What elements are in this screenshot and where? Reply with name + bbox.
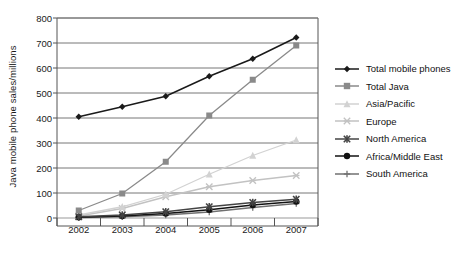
circle-marker-icon (334, 150, 360, 162)
x-tick-label: 2004 (155, 224, 176, 235)
legend-item-total-java[interactable]: Total Java (334, 78, 470, 96)
star-marker-icon (334, 133, 360, 145)
square-marker-icon (334, 80, 360, 92)
x-tick-label: 2003 (112, 224, 133, 235)
legend-label: Total Java (360, 81, 409, 92)
legend-item-north-america[interactable]: North America (334, 130, 470, 148)
plus-marker-icon (334, 168, 360, 180)
legend-item-total-mobile-phones[interactable]: Total mobile phones (334, 60, 470, 78)
cross-marker-icon (334, 115, 360, 127)
legend-label: South America (360, 168, 428, 179)
x-tick-label: 2006 (242, 224, 263, 235)
legend-item-africa-middle-east[interactable]: Africa/Middle East (334, 148, 470, 166)
legend-item-europe[interactable]: Europe (334, 113, 470, 131)
legend-label: North America (360, 133, 426, 144)
series-line (76, 34, 300, 120)
legend-item-asia-pacific[interactable]: Asia/Pacific (334, 95, 470, 113)
legend-item-south-america[interactable]: South America (334, 165, 470, 183)
x-tick-label: 2002 (68, 224, 89, 235)
x-tick-label: 2005 (199, 224, 220, 235)
triangle-marker-icon (334, 98, 360, 110)
legend-label: Asia/Pacific (360, 98, 415, 109)
diamond-marker-icon (334, 63, 360, 75)
chart-legend: Total mobile phonesTotal JavaAsia/Pacifi… (334, 60, 470, 183)
legend-label: Europe (360, 116, 397, 127)
legend-label: Africa/Middle East (360, 151, 443, 162)
chart-container: Java mobile phone sales/millions 0100200… (0, 0, 472, 256)
legend-label: Total mobile phones (360, 63, 451, 74)
x-tick-label: 2007 (286, 224, 307, 235)
